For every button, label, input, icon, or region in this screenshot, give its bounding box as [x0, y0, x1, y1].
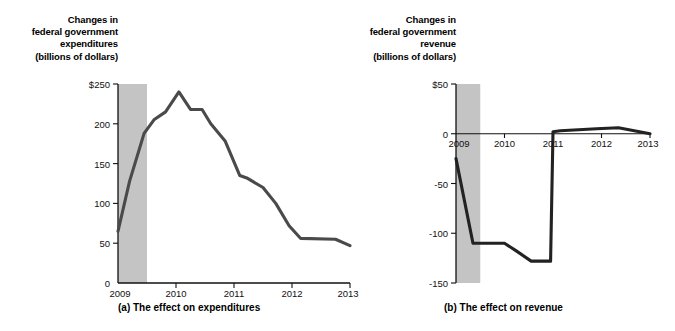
recession-band-a [118, 84, 147, 283]
panel-a-ylabel-50: 50 [72, 238, 110, 249]
panel-b-ylabel-50: $50 [410, 79, 448, 90]
panel-a-xlabel-2011: 2011 [224, 288, 244, 299]
panel-a-plot [0, 0, 370, 331]
figure-container: Changes in federal government expenditur… [0, 0, 675, 331]
panel-b-ylabel-n50: -50 [410, 178, 448, 189]
panel-a-svg [0, 0, 370, 331]
panel-b-xlabel-2012: 2012 [591, 138, 612, 149]
panel-a-ylabel-250: $250 [72, 79, 110, 90]
panel-a-ylabel-0: 0 [72, 278, 110, 289]
panel-b-svg [338, 0, 675, 331]
panel-b-xlabel-2011: 2011 [543, 138, 563, 149]
panel-b-xlabel-2013: 2013 [637, 138, 658, 149]
y-ticks-a [113, 84, 118, 243]
panel-b-ylabel-0: 0 [410, 128, 448, 139]
x-ticks-a [176, 283, 350, 288]
panel-b-plot [338, 0, 675, 331]
panel-a-caption: (a) The effect on expenditures [118, 302, 260, 313]
panel-a-xlabel-2012: 2012 [281, 288, 302, 299]
panel-a-ylabel-200: 200 [72, 118, 110, 129]
x-ticks-b [505, 134, 651, 138]
panel-a-xlabel-2009: 2009 [109, 288, 130, 299]
panel-a-ylabel-150: 150 [72, 158, 110, 169]
panel-expenditures: Changes in federal government expenditur… [0, 0, 370, 331]
panel-b-xlabel-2009: 2009 [448, 138, 469, 149]
expenditures-line [118, 92, 350, 246]
panel-a-ylabel-100: 100 [72, 198, 110, 209]
panel-a-xlabel-2010: 2010 [165, 288, 186, 299]
panel-b-caption: (b) The effect on revenue [444, 302, 563, 313]
panel-b-ylabel-n150: -150 [410, 278, 448, 289]
panel-b-ylabel-n100: -100 [410, 228, 448, 239]
panel-b-xlabel-2010: 2010 [494, 138, 515, 149]
panel-revenue: Changes in federal government revenue (b… [338, 0, 675, 331]
y-ticks-b [451, 84, 456, 283]
